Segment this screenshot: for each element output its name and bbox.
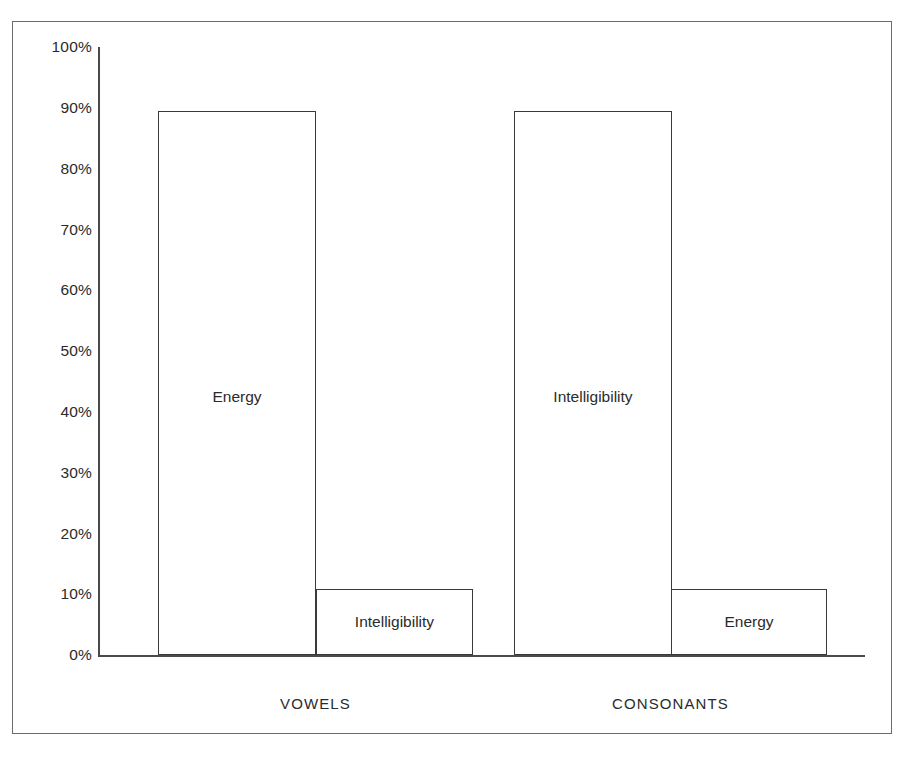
- bar-vowels-energy: Energy: [158, 111, 316, 655]
- y-tick-label: 0%: [4, 647, 92, 663]
- chart-plot-area: 100% 90% 80% 70% 60% 50% 40% 30% 20% 10%…: [0, 0, 906, 762]
- y-axis-line: [98, 47, 100, 656]
- x-axis-line: [98, 655, 865, 657]
- y-tick-label: 60%: [4, 282, 92, 298]
- bar-vowels-intelligibility: Intelligibility: [316, 589, 473, 655]
- bar-label: Intelligibility: [515, 389, 671, 405]
- y-tick-label: 70%: [4, 222, 92, 238]
- bar-consonants-energy: Energy: [671, 589, 827, 655]
- y-tick-label: 20%: [4, 526, 92, 542]
- y-axis-tick-labels: 100% 90% 80% 70% 60% 50% 40% 30% 20% 10%…: [0, 0, 92, 762]
- y-tick-label: 30%: [4, 465, 92, 481]
- bar-consonants-intelligibility: Intelligibility: [514, 111, 672, 655]
- y-tick-label: 50%: [4, 343, 92, 359]
- category-label-vowels: VOWELS: [158, 696, 473, 711]
- y-tick-label: 10%: [4, 586, 92, 602]
- y-tick-label: 40%: [4, 404, 92, 420]
- y-tick-label: 90%: [4, 100, 92, 116]
- chart-page: 100% 90% 80% 70% 60% 50% 40% 30% 20% 10%…: [0, 0, 906, 762]
- bar-label: Intelligibility: [317, 614, 472, 630]
- bar-label: Energy: [672, 614, 826, 630]
- bar-label: Energy: [159, 389, 315, 405]
- y-tick-label: 100%: [4, 39, 92, 55]
- category-label-consonants: CONSONANTS: [514, 696, 827, 711]
- y-tick-label: 80%: [4, 161, 92, 177]
